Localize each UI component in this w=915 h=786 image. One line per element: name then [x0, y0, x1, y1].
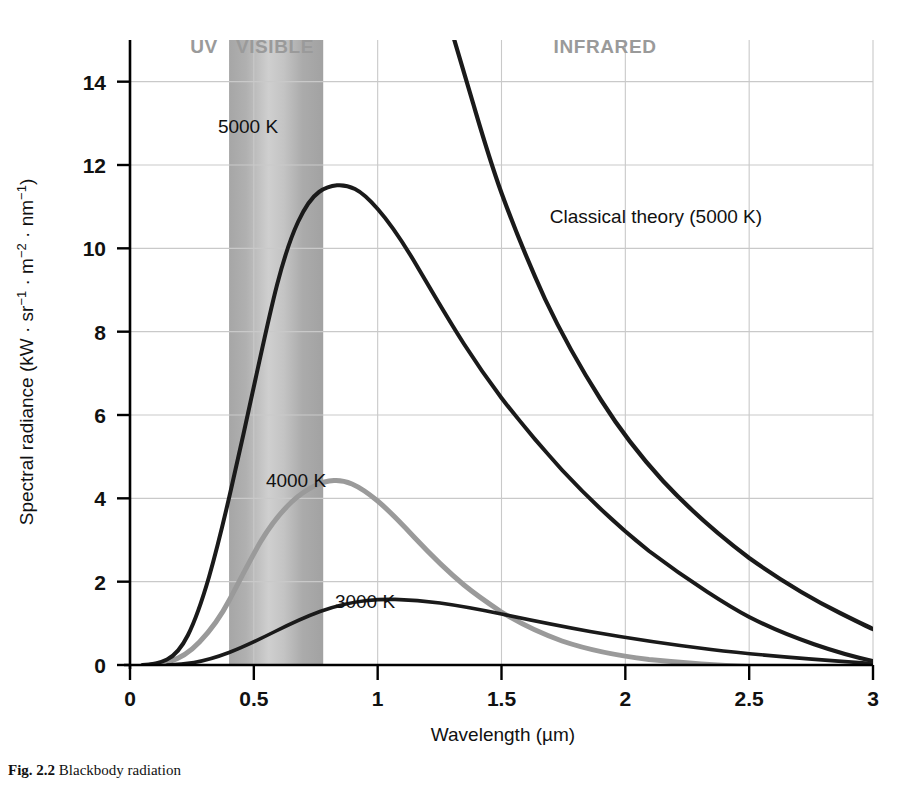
band-label-infrared: INFRARED: [554, 36, 657, 57]
figure-caption-number: Fig. 2.2: [8, 762, 55, 778]
y-tick-label-8: 8: [94, 321, 106, 344]
x-tick-label-0: 0: [124, 687, 136, 710]
annotation-classical-theory: Classical theory (5000 K): [550, 206, 762, 227]
y-tick-label-10: 10: [83, 237, 106, 260]
x-tick-label-3: 3: [867, 687, 879, 710]
annotation-5000k: 5000 K: [218, 116, 279, 137]
y-axis-title-sup-1: −1: [14, 291, 29, 306]
y-axis-title-part-1: Spectral radiance (kW · sr: [16, 305, 37, 525]
x-tick-labels: 0 0.5 1 1.5 2 2.5 3: [124, 687, 879, 710]
figure-caption: Fig. 2.2 Blackbody radiation: [8, 762, 181, 779]
band-label-uv: UV: [190, 36, 218, 57]
y-axis-title-part-3: · nm: [16, 200, 37, 243]
y-tick-labels: 0 2 4 6 8 10 12 14: [83, 71, 107, 677]
x-tick-label-25: 2.5: [735, 687, 765, 710]
y-axis-title: Spectral radiance (kW · sr−1 · m−2 · nm−…: [14, 179, 38, 525]
x-tick-label-05: 0.5: [239, 687, 269, 710]
figure-caption-text: Blackbody radiation: [59, 762, 181, 778]
y-tick-label-14: 14: [83, 71, 107, 94]
y-axis-title-part-4: ): [16, 179, 37, 185]
y-tick-label-12: 12: [83, 154, 106, 177]
y-axis-title-sup-2: −2: [14, 243, 29, 258]
annotation-3000k: 3000 K: [335, 591, 396, 612]
x-tick-label-15: 1.5: [487, 687, 517, 710]
x-tick-label-1: 1: [372, 687, 384, 710]
spectral-radiance-chart: UV VISIBLE INFRARED: [0, 0, 915, 760]
y-axis-title-sup-3: −1: [14, 185, 29, 200]
band-label-visible: VISIBLE: [236, 36, 314, 57]
y-tick-label-2: 2: [94, 571, 106, 594]
y-tick-marks: [117, 82, 130, 665]
x-tick-label-2: 2: [619, 687, 631, 710]
blackbody-radiation-figure: UV VISIBLE INFRARED: [0, 0, 915, 786]
y-tick-label-0: 0: [94, 654, 106, 677]
x-tick-marks: [130, 665, 873, 680]
x-axis-title: Wavelength (µm): [431, 724, 575, 745]
annotation-4000k: 4000 K: [266, 470, 327, 491]
y-tick-label-6: 6: [94, 404, 106, 427]
y-axis-title-part-2: · m: [16, 258, 37, 291]
y-tick-label-4: 4: [94, 487, 106, 510]
